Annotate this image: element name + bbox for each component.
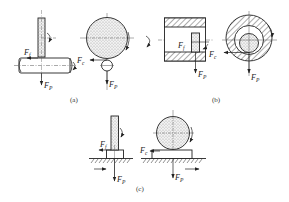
svg-text:FP: FP — [197, 70, 207, 80]
svg-text:FP: FP — [108, 80, 118, 90]
svg-text:FP: FP — [43, 81, 53, 91]
caption-c: (c) — [136, 185, 144, 193]
rotation-arrow-icon — [47, 33, 50, 42]
caption-b: (b) — [212, 96, 221, 104]
svg-text:Fc: Fc — [76, 56, 85, 66]
svg-text:FP: FP — [116, 175, 126, 185]
panel-a: Ff Fc FP FP (a) — [14, 10, 134, 104]
svg-text:Fc: Fc — [208, 50, 217, 60]
grinding-force-diagram: Ff Fc FP FP (a) Ff Fc — [0, 0, 289, 202]
wheel-rotation-icon-c — [190, 127, 192, 142]
svg-text:Ff: Ff — [99, 140, 108, 150]
grinding-wheel-edge-c — [111, 116, 119, 150]
workpiece-block-c1 — [107, 150, 124, 159]
caption-a: (a) — [70, 96, 78, 104]
rotation-arrow-icon-c — [120, 128, 122, 137]
svg-text:FP: FP — [250, 73, 260, 83]
svg-text:Fc: Fc — [139, 146, 148, 156]
panel-b: Ff Fc FP FP (b) — [146, 11, 277, 104]
panel-c: Ff FP Fc FP (c) — [89, 110, 206, 193]
shaft-rotation-icon — [73, 62, 75, 70]
svg-text:FP: FP — [174, 173, 184, 183]
svg-text:Ff: Ff — [23, 48, 32, 58]
internal-grinding-wheel — [192, 33, 200, 52]
rotation-arrow-icon-b — [146, 36, 150, 47]
